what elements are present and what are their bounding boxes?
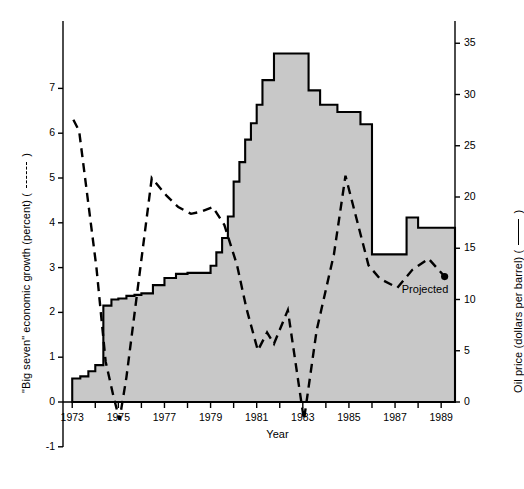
right-axis-title-paren: ) xyxy=(512,210,524,214)
x-tick-1977: 1977 xyxy=(153,411,176,423)
left-tick-1: 1 xyxy=(49,350,55,362)
chart-figure: "Big seven" economic growth (percent) ( … xyxy=(0,0,524,489)
x-tick-1975: 1975 xyxy=(107,411,130,423)
left-tick-5: 5 xyxy=(49,171,55,183)
right-tick-25: 25 xyxy=(464,139,476,151)
right-axis-title: Oil price (dollars per barrel) ( ) xyxy=(512,210,524,393)
right-axis-title-text: Oil price (dollars per barrel) ( xyxy=(512,250,524,393)
right-tick-35: 35 xyxy=(464,36,476,48)
left-tick--1: -1 xyxy=(46,440,55,452)
left-axis-title-text: "Big seven" economic growth (percent) ( xyxy=(20,193,32,393)
left-axis-title-paren: ) xyxy=(20,153,32,157)
left-axis-title: "Big seven" economic growth (percent) ( … xyxy=(20,153,32,393)
right-tick-10: 10 xyxy=(464,293,476,305)
x-tick-1979: 1979 xyxy=(199,411,222,423)
left-tick-3: 3 xyxy=(49,261,55,273)
x-tick-1973: 1973 xyxy=(61,411,84,423)
x-tick-1989: 1989 xyxy=(429,411,452,423)
left-tick-0: 0 xyxy=(49,395,55,407)
projected-annotation: Projected xyxy=(402,283,448,295)
left-tick-4: 4 xyxy=(49,216,55,228)
x-tick-1987: 1987 xyxy=(383,411,406,423)
right-tick-5: 5 xyxy=(464,344,470,356)
x-axis-title: Year xyxy=(266,428,288,440)
right-tick-30: 30 xyxy=(464,88,476,100)
right-tick-0: 0 xyxy=(464,395,470,407)
projected-end-marker xyxy=(441,273,448,280)
x-tick-1981: 1981 xyxy=(245,411,268,423)
x-tick-1983: 1983 xyxy=(291,411,314,423)
left-tick-7: 7 xyxy=(49,81,55,93)
right-tick-15: 15 xyxy=(464,241,476,253)
solid-legend-icon xyxy=(518,219,519,245)
left-tick-2: 2 xyxy=(49,305,55,317)
left-tick-6: 6 xyxy=(49,126,55,138)
x-tick-1985: 1985 xyxy=(337,411,360,423)
right-tick-20: 20 xyxy=(464,190,476,202)
dashed-legend-icon xyxy=(26,162,27,188)
